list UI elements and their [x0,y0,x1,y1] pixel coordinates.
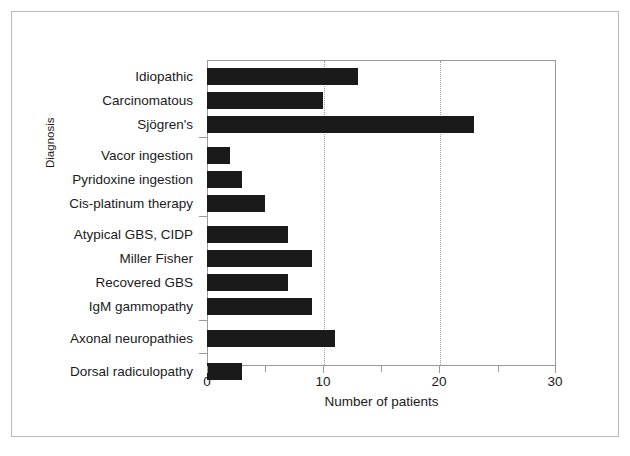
y-label-vacor-ingestion: Vacor ingestion [101,147,193,164]
x-tick-30 [555,366,556,373]
y-label-recovered-gbs: Recovered GBS [95,274,193,291]
bar-miller-fisher [207,250,312,267]
bar-axonal-neuropathies [207,330,335,347]
x-tick-20 [439,366,440,373]
y-label-axonal-neuropathies: Axonal neuropathies [70,330,193,347]
x-tick-0 [207,366,208,373]
x-tick-5 [265,366,266,372]
bar-recovered-gbs [207,274,288,291]
x-tick-label-20: 20 [431,374,446,389]
bar-chart: Idiopathic Carcinomatous Sjögren's Vacor… [0,0,630,456]
bar-pyridoxine-ingestion [207,171,242,188]
y-label-carcinomatous: Carcinomatous [102,92,193,109]
y-label-pyridoxine-ingestion: Pyridoxine ingestion [72,171,193,188]
y-label-idiopathic: Idiopathic [135,68,193,85]
bar-sjogrens [207,116,474,133]
y-label-cis-platinum-therapy: Cis-platinum therapy [69,195,193,212]
y-label-miller-fisher: Miller Fisher [119,250,193,267]
y-label-sjogrens: Sjögren's [137,116,193,133]
x-tick-15 [381,366,382,372]
y-axis-title: Diagnosis [44,118,56,169]
x-tick-label-10: 10 [315,374,330,389]
y-axis-category-labels: Idiopathic Carcinomatous Sjögren's Vacor… [0,60,203,366]
x-tick-10 [323,366,324,373]
y-label-igm-gammopathy: IgM gammopathy [89,298,193,315]
bar-igm-gammopathy [207,298,312,315]
bars-layer [207,60,556,366]
x-axis-tick-labels: 0 10 20 30 [207,374,556,394]
x-axis-title: Number of patients [207,394,556,409]
y-label-dorsal-radiculopathy: Dorsal radiculopathy [70,363,193,380]
bar-carcinomatous [207,92,323,109]
x-tick-label-0: 0 [203,374,211,389]
bar-idiopathic [207,68,358,85]
x-tick-25 [498,366,499,372]
x-tick-label-30: 30 [547,374,562,389]
y-label-atypical-gbs-cidp: Atypical GBS, CIDP [74,226,193,243]
bar-vacor-ingestion [207,147,230,164]
bar-cis-platinum-therapy [207,195,265,212]
bar-atypical-gbs-cidp [207,226,288,243]
